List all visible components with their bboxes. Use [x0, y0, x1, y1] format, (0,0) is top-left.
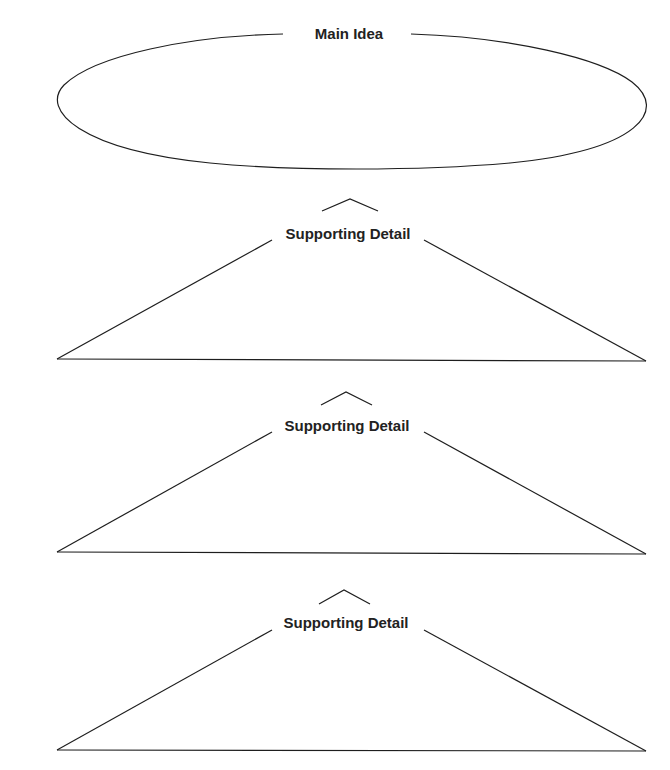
organizer-diagram: Main Idea Supporting Detail Supporting D… [0, 0, 670, 770]
main-idea-ellipse [57, 34, 646, 169]
supporting-detail-triangle-1 [57, 199, 646, 361]
supporting-detail-label-1: Supporting Detail [286, 225, 411, 242]
supporting-detail-label-3: Supporting Detail [284, 614, 409, 631]
main-idea-label: Main Idea [315, 25, 384, 42]
supporting-detail-label-2: Supporting Detail [285, 417, 410, 434]
